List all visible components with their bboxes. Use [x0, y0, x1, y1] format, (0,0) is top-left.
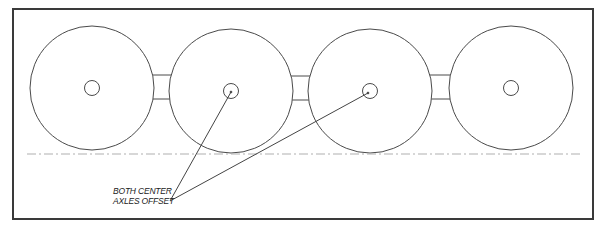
wheel-1: [30, 26, 154, 150]
callout-label: BOTH CENTER AXLES OFFSET: [113, 187, 174, 206]
wheel-hub: [85, 81, 100, 96]
wheel-hub: [504, 81, 519, 96]
wheel-diagram: [0, 0, 606, 227]
wheel-4: [449, 26, 573, 150]
wheel-3: [308, 29, 432, 153]
callout-line-2: AXLES OFFSET: [113, 197, 174, 207]
wheel-hub: [363, 84, 378, 99]
